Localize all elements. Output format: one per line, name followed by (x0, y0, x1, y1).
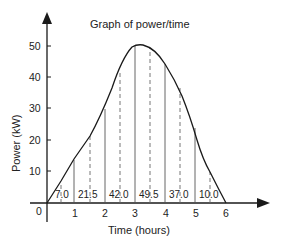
y-tick-label: 10 (29, 165, 41, 177)
x-tick-label: 4 (163, 207, 169, 219)
y-axis-title: Power (kW) (10, 115, 22, 172)
mid-value-label: 7.0 (55, 189, 69, 200)
chart-title: Graph of power/time (90, 18, 190, 30)
y-tick-label: 50 (29, 40, 41, 52)
x-axis-arrow-icon (257, 198, 270, 208)
x-tick-label: 3 (132, 207, 138, 219)
solid-ordinates (74, 46, 195, 203)
y-tick-label: 20 (29, 134, 41, 146)
dashed-mid-ordinates (61, 48, 210, 203)
x-tick-label: 1 (72, 207, 78, 219)
x-tick-label: 6 (223, 207, 229, 219)
x-tick-label: 5 (193, 207, 199, 219)
origin-label: 0 (36, 205, 42, 217)
mid-value-label: 21.5 (78, 189, 98, 200)
x-tick-label: 2 (102, 207, 108, 219)
y-axis-arrow-icon (42, 12, 52, 24)
y-tick-label: 40 (29, 71, 41, 83)
y-tick-label: 30 (29, 102, 41, 114)
mid-value-label: 42.0 (109, 189, 129, 200)
mid-value-label: 10.0 (199, 189, 219, 200)
mid-value-label: 37.0 (169, 189, 189, 200)
mid-value-label: 49.5 (139, 189, 159, 200)
x-axis-title: Time (hours) (108, 224, 170, 236)
power-time-chart: Graph of power/time 10 20 30 40 50 0 1 2… (0, 0, 282, 245)
